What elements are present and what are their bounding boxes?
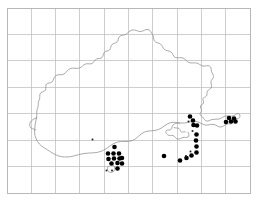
record-dot [120, 161, 125, 166]
record-dot [120, 156, 125, 161]
record-dots-layer [92, 114, 238, 171]
record-dot [227, 116, 232, 121]
record-dot [178, 158, 183, 163]
record-dot [92, 139, 94, 141]
record-dot [194, 144, 199, 149]
record-dot [232, 116, 237, 121]
record-dot [115, 166, 120, 171]
coastline-outline [35, 29, 240, 157]
record-dot [190, 151, 192, 153]
record-dot [109, 161, 114, 166]
record-dot [189, 153, 194, 158]
record-dot [188, 114, 193, 119]
harbour-inner-detail [174, 128, 186, 133]
record-dot [106, 157, 111, 162]
record-dot [111, 151, 116, 156]
record-dot [162, 154, 167, 159]
record-dot [224, 120, 229, 125]
record-dot [188, 121, 190, 123]
record-dot [191, 118, 196, 123]
record-dot [106, 151, 111, 156]
record-dot [117, 151, 122, 156]
record-dot [194, 132, 199, 137]
record-dot [194, 138, 199, 143]
record-dot [194, 150, 199, 155]
record-dot [111, 170, 113, 172]
coastline-layer [30, 29, 240, 172]
record-dot [115, 161, 120, 166]
record-dot [195, 123, 200, 128]
record-dot [112, 156, 117, 161]
record-dot [106, 170, 108, 172]
record-dot [185, 155, 187, 157]
map-canvas [0, 0, 259, 203]
distribution-map-figure [0, 0, 259, 203]
record-dot [192, 130, 194, 132]
record-dot [112, 145, 117, 150]
grid-layer [7, 8, 250, 193]
